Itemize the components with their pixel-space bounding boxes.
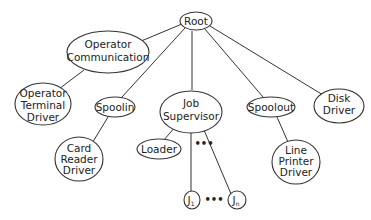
node-root: Root	[180, 12, 212, 30]
node-operator-communication: Operator Communication	[67, 31, 150, 73]
svg-text:Root: Root	[184, 15, 208, 27]
node-job-supervisor: Job Supervisor	[160, 91, 222, 133]
svg-text:Spoolout: Spoolout	[248, 101, 294, 113]
svg-text:Operator: Operator	[85, 38, 133, 50]
ellipsis-bottom: •••	[204, 194, 223, 205]
edge-spoolout-lineprinter	[277, 117, 288, 142]
node-jn: Jn	[228, 191, 246, 209]
svg-text:Disk: Disk	[328, 92, 351, 104]
node-operator-terminal-driver: Operator Terminal Driver	[15, 83, 71, 125]
svg-text:Spoolin: Spoolin	[96, 101, 135, 113]
svg-text:Job: Job	[182, 97, 200, 109]
svg-text:Driver: Driver	[323, 104, 356, 116]
node-spoolout: Spoolout	[247, 97, 295, 117]
node-line-printer-driver: Line Printer Driver	[272, 140, 320, 184]
ellipsis-middle: •••	[194, 138, 213, 149]
svg-text:Driver: Driver	[280, 166, 313, 178]
edge-spoolin-cardreader	[91, 117, 108, 145]
tree-diagram: Root Operator Communication Operator Ter…	[0, 0, 371, 220]
svg-text:Operator: Operator	[20, 87, 68, 99]
svg-text:Loader: Loader	[141, 143, 178, 155]
edge-root-disk	[210, 26, 323, 95]
node-loader: Loader	[137, 139, 181, 159]
svg-text:Communication: Communication	[67, 51, 150, 63]
svg-text:Terminal: Terminal	[20, 99, 65, 111]
svg-text:Driver: Driver	[27, 111, 60, 123]
edge-root-spoolout	[204, 28, 263, 97]
svg-text:Driver: Driver	[63, 164, 96, 176]
node-spoolin: Spoolin	[95, 97, 135, 117]
node-j1: J1	[184, 191, 200, 209]
node-disk-driver: Disk Driver	[314, 89, 364, 123]
node-card-reader-driver: Card Reader Driver	[55, 137, 103, 181]
svg-text:Supervisor: Supervisor	[163, 110, 220, 122]
